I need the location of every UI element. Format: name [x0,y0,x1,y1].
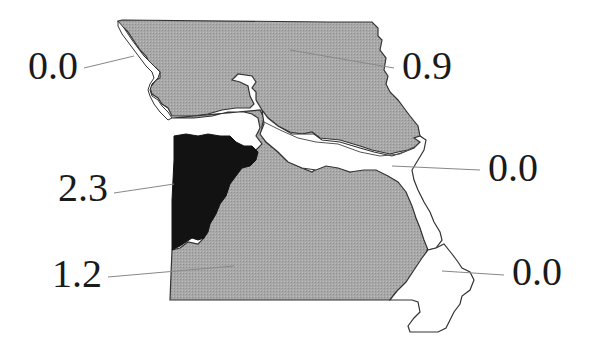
leader-line-kc [114,184,174,193]
label-north: 0.9 [402,46,452,86]
label-kansas-city: 2.3 [58,168,108,208]
leader-line-nw [84,56,134,68]
label-southwest-south: 1.2 [52,254,102,294]
label-northwest-river: 0.0 [28,46,78,86]
missouri-choropleth-map: 0.0 0.9 2.3 1.2 0.0 0.0 [0,0,592,346]
label-southeast-bootheel: 0.0 [512,252,562,292]
label-east-central: 0.0 [488,148,538,188]
